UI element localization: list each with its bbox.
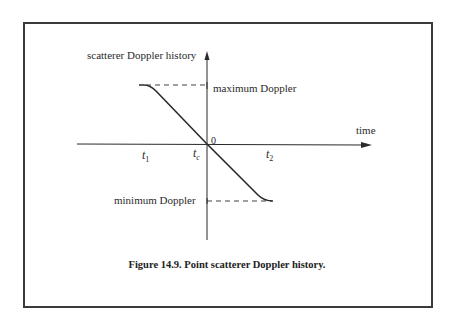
doppler-history-diagram: scatterer Doppler history maximum Dopple…	[0, 0, 454, 324]
doppler-history-curve	[139, 85, 273, 201]
x-axis	[77, 144, 364, 145]
x-axis-label: time	[356, 124, 376, 136]
max-doppler-label: maximum Doppler	[213, 82, 297, 94]
tick-label-tc: tc	[193, 146, 200, 162]
y-axis-label: scatterer Doppler history	[87, 49, 197, 61]
figure-caption: Figure 14.9. Point scatterer Doppler his…	[0, 259, 454, 270]
tick-label-t2: t2	[266, 147, 273, 163]
x-axis-arrow-icon	[361, 142, 372, 148]
min-doppler-label: minimum Doppler	[114, 194, 196, 206]
tick-label-t1: t1	[142, 148, 149, 164]
y-axis-arrow-icon	[205, 51, 210, 60]
origin-label: 0	[211, 135, 216, 146]
